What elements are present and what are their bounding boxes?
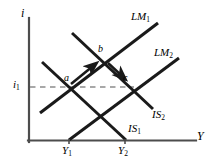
x-tick-label-Y1-subscript: 1 bbox=[68, 149, 72, 158]
curve-label-IS1-subscript: 1 bbox=[137, 127, 141, 136]
curve-label-LM2: LM2 bbox=[154, 47, 173, 59]
axes-group bbox=[28, 18, 196, 142]
curve-IS2 bbox=[72, 33, 153, 109]
y-tick-label-i1-subscript: 1 bbox=[16, 83, 20, 92]
y-axis-label: i bbox=[21, 7, 24, 19]
curve-label-LM1-base: LM bbox=[131, 10, 146, 22]
point-label-a: a bbox=[64, 73, 69, 83]
curves-group bbox=[40, 23, 179, 140]
curve-label-IS2-subscript: 2 bbox=[161, 113, 165, 122]
curve-label-IS1-base: IS bbox=[128, 122, 137, 134]
y-tick-label-i1: i1 bbox=[13, 79, 20, 91]
point-label-c: c bbox=[123, 73, 127, 83]
curve-label-LM2-base: LM bbox=[154, 46, 169, 58]
x-tick-label-Y2: Y2 bbox=[118, 145, 128, 157]
curve-LM2 bbox=[69, 58, 179, 140]
curve-label-LM1: LM1 bbox=[131, 11, 150, 23]
curve-label-IS2: IS2 bbox=[152, 109, 165, 121]
x-axis-label: Y bbox=[197, 130, 204, 142]
diagram-canvas bbox=[0, 0, 213, 165]
islm-diagram: i Y i1 Y1 Y2 LM1 LM2 IS1 IS2 a b c bbox=[0, 0, 213, 165]
x-tick-label-Y2-subscript: 2 bbox=[124, 149, 128, 158]
curve-label-IS2-base: IS bbox=[152, 108, 161, 120]
curve-LM1 bbox=[40, 23, 158, 113]
curve-label-LM1-subscript: 1 bbox=[146, 15, 150, 24]
x-tick-label-Y1: Y1 bbox=[62, 145, 72, 157]
curve-label-LM2-subscript: 2 bbox=[169, 51, 173, 60]
point-label-b: b bbox=[98, 44, 103, 54]
curve-label-IS1: IS1 bbox=[128, 123, 141, 135]
